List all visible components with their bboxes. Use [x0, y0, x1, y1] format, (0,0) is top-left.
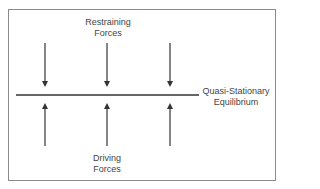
equilibrium-label: Quasi-Stationary Equilibrium — [199, 86, 273, 108]
restraining-forces-line2: Forces — [78, 28, 138, 39]
restraining-forces-line1: Restraining — [78, 17, 138, 28]
driving-forces-label: Driving Forces — [77, 153, 137, 175]
restraining-forces-label: Restraining Forces — [78, 17, 138, 39]
driving-forces-line1: Driving — [77, 153, 137, 164]
driving-arrows — [45, 106, 170, 146]
equilibrium-line2: Equilibrium — [199, 97, 273, 108]
restraining-arrows — [45, 43, 170, 84]
driving-forces-line2: Forces — [77, 164, 137, 175]
equilibrium-line1: Quasi-Stationary — [199, 86, 273, 97]
